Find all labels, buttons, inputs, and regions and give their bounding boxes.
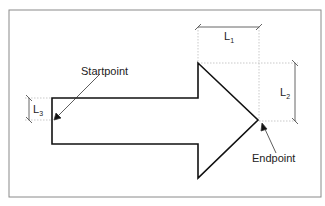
arrow-diagram: Startpoint Endpoint L1 L2 L3: [0, 0, 325, 206]
endpoint-label: Endpoint: [252, 152, 295, 164]
startpoint-label: Startpoint: [81, 65, 128, 77]
